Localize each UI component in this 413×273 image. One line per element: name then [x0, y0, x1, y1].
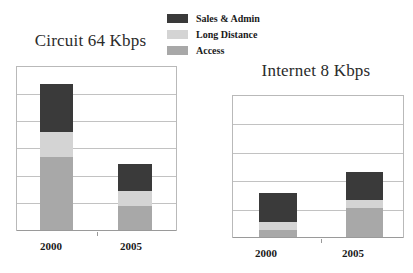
- bar-segment-access: [259, 230, 297, 237]
- bar-segment-access: [40, 157, 73, 230]
- bar-internet-2000: [259, 193, 297, 237]
- x-tick-label-2000: 2000: [224, 247, 308, 259]
- chart-title: Internet 8 Kbps: [236, 61, 396, 81]
- x-axis-line: [233, 237, 403, 238]
- bar-segment-sales-admin: [259, 193, 297, 222]
- bar-segment-long-distance: [40, 132, 73, 157]
- gridline: [233, 153, 403, 154]
- chart-circuit-64kbps: Circuit 64 Kbps 2000: [0, 0, 200, 273]
- bar-segment-access: [346, 208, 383, 237]
- bar-internet-2005: [346, 172, 383, 237]
- plot-area-internet: [232, 95, 404, 238]
- bar-segment-long-distance: [118, 191, 152, 206]
- bar-circuit-2005: [118, 164, 152, 230]
- figure: Sales & Admin Long Distance Access Circu…: [0, 0, 413, 273]
- bar-segment-sales-admin: [118, 164, 152, 191]
- chart-internet-8kbps: Internet 8 Kbps 2000 2005: [220, 0, 413, 273]
- bar-segment-sales-admin: [40, 84, 73, 132]
- bar-segment-access: [118, 206, 152, 230]
- x-tick-label-2000: 2000: [9, 240, 93, 252]
- chart-title: Circuit 64 Kbps: [18, 31, 163, 51]
- bar-circuit-2000: [40, 84, 73, 230]
- x-axis-line: [17, 230, 176, 231]
- x-tick-label-2005: 2005: [311, 247, 395, 259]
- x-axis-tick: [97, 232, 98, 236]
- x-tick-label-2005: 2005: [89, 240, 173, 252]
- x-axis-tick: [321, 239, 322, 243]
- gridline: [233, 124, 403, 125]
- bar-segment-long-distance: [259, 222, 297, 230]
- plot-area-circuit: [16, 66, 177, 231]
- bar-segment-long-distance: [346, 200, 383, 208]
- bar-segment-sales-admin: [346, 172, 383, 200]
